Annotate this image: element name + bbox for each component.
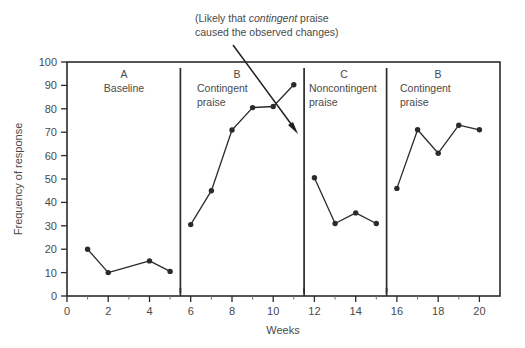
data-point (477, 127, 482, 132)
data-point (85, 247, 90, 252)
phase-a-line-1: Baseline (104, 82, 144, 94)
series-a-baseline (85, 247, 173, 276)
y-tick-label: 90 (45, 79, 57, 91)
y-tick-label: 50 (45, 173, 57, 185)
arrow-head (288, 122, 298, 134)
x-axis: 0 2 4 6 8 10 12 14 16 18 20 (64, 296, 486, 317)
data-point (167, 269, 172, 274)
data-point (209, 188, 214, 193)
y-tick-label: 30 (45, 220, 57, 232)
y-tick-label: 20 (45, 243, 57, 255)
phase-label-b2: B Contingent praise (400, 68, 451, 108)
chart-svg: (Likely that contingent praise caused th… (0, 0, 525, 348)
annotation-suffix: praise (297, 12, 329, 24)
phase-b2-letter: B (434, 68, 441, 80)
phase-a-letter: A (120, 68, 127, 80)
x-tick-label: 6 (188, 305, 194, 317)
annotation-prefix: (Likely that (195, 12, 249, 24)
x-axis-title: Weeks (266, 324, 300, 336)
data-point (415, 127, 420, 132)
data-point (456, 123, 461, 128)
x-tick-label: 16 (391, 305, 403, 317)
y-tick-label: 100 (39, 56, 57, 68)
x-tick-label: 4 (146, 305, 152, 317)
phase-c-line-2: praise (309, 96, 338, 108)
data-point (188, 222, 193, 227)
series-b2-contingent-praise (394, 123, 482, 192)
data-point (106, 270, 111, 275)
phase-label-c: C Noncontingent praise (309, 68, 377, 108)
x-tick-label: 8 (229, 305, 235, 317)
y-tick-label: 10 (45, 267, 57, 279)
data-point (353, 210, 358, 215)
series-c-noncontingent-praise (312, 175, 379, 226)
single-subject-design-chart: (Likely that contingent praise caused th… (0, 0, 525, 348)
phase-b1-line-2: praise (197, 96, 226, 108)
phase-b1-letter: B (233, 68, 240, 80)
y-tick-label: 80 (45, 103, 57, 115)
y-axis-title: Frequency of response (12, 123, 24, 236)
data-point (147, 258, 152, 263)
x-tick-label: 18 (432, 305, 444, 317)
data-point (291, 82, 296, 87)
phase-label-b1: B Contingent praise (197, 68, 248, 108)
data-point (436, 151, 441, 156)
x-tick-label: 0 (64, 305, 70, 317)
series-c-line (314, 178, 376, 224)
x-tick-label: 12 (308, 305, 320, 317)
plot-frame (67, 62, 500, 296)
phase-label-a: A Baseline (104, 68, 144, 94)
phase-c-letter: C (340, 68, 348, 80)
y-tick-label: 60 (45, 150, 57, 162)
y-tick-label: 40 (45, 196, 57, 208)
data-point (374, 221, 379, 226)
data-point (250, 105, 255, 110)
series-a-line (88, 249, 171, 272)
y-tick-label: 0 (51, 290, 57, 302)
phase-c-line-1: Noncontingent (309, 82, 377, 94)
y-axis: 100 90 80 70 60 50 40 30 20 (39, 56, 67, 302)
phase-b2-line-2: praise (400, 96, 429, 108)
x-tick-label: 10 (267, 305, 279, 317)
data-point (271, 104, 276, 109)
phase-b1-line-1: Contingent (197, 82, 248, 94)
annotation-line-1: (Likely that contingent praise (195, 12, 329, 24)
annotation-line-2: caused the observed changes) (195, 26, 339, 38)
y-tick-label: 70 (45, 126, 57, 138)
x-tick-label: 2 (105, 305, 111, 317)
data-point (312, 175, 317, 180)
data-point (394, 186, 399, 191)
phase-b2-line-1: Contingent (400, 82, 451, 94)
x-tick-label: 14 (350, 305, 362, 317)
x-tick-label: 20 (473, 305, 485, 317)
annotation-emphasis: contingent (249, 12, 299, 24)
series-b2-line (397, 125, 480, 188)
data-point (229, 127, 234, 132)
data-point (332, 221, 337, 226)
